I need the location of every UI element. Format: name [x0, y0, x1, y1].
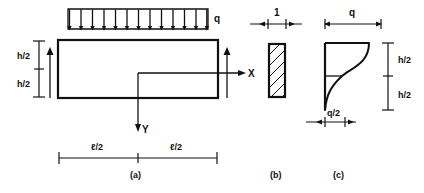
span-left-label: ℓ/2 [91, 142, 103, 152]
unit-dim-arrow-right [289, 22, 295, 27]
caption-a: (a) [130, 170, 141, 180]
stress-q-half-label: q/2 [327, 108, 340, 118]
left-height-dimensions: h/2 h/2 [17, 41, 45, 97]
x-axis-label: X [248, 68, 255, 79]
distributed-load-block: q [67, 9, 220, 31]
qhalf-dim-arrow-right [348, 120, 354, 125]
y-axis-head [135, 124, 141, 132]
span-right-label: ℓ/2 [170, 142, 182, 152]
qhalf-dim-arrow-left [316, 120, 322, 125]
beam-stress-diagram: q X Y [0, 0, 424, 193]
caption-c: (c) [333, 170, 344, 180]
figure-root: q X Y [0, 0, 424, 193]
left-reaction-head [47, 47, 54, 55]
load-q-label: q [214, 13, 220, 24]
x-axis-head [238, 70, 246, 76]
right-height-dimensions: h/2 h/2 [382, 43, 411, 110]
unit-dim-arrow-left [259, 22, 265, 27]
y-axis-label: Y [142, 124, 149, 135]
stress-q-dimension: q [324, 7, 382, 29]
left-h2-lower-label: h/2 [17, 79, 30, 89]
span-dimensions: ℓ/2 ℓ/2 [59, 142, 217, 164]
right-h2-lower-label: h/2 [398, 90, 411, 100]
stress-q-label: q [349, 7, 355, 18]
right-h2-upper-label: h/2 [398, 55, 411, 65]
load-arrows [67, 10, 209, 31]
caption-b: (b) [270, 170, 282, 180]
stress-distribution [325, 43, 369, 110]
left-h2-upper-label: h/2 [17, 51, 30, 61]
right-reaction-head [224, 47, 231, 55]
unit-width-dimension: 1 [250, 7, 302, 29]
section-hatching [255, 13, 300, 146]
stress-q-half-dimension: q/2 [306, 108, 356, 127]
coordinate-axes: X Y [135, 68, 255, 135]
hatched-section [255, 13, 300, 146]
unit-width-label: 1 [274, 7, 280, 18]
